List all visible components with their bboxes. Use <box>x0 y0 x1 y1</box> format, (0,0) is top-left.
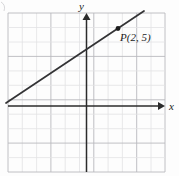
point-p-label: P(2, 5) <box>119 31 151 44</box>
page-corner-artifact <box>1 2 5 11</box>
coordinate-graph: y x P(2, 5) <box>0 0 179 176</box>
figure-container: y x P(2, 5) <box>0 0 179 176</box>
y-axis-label: y <box>78 0 84 12</box>
x-axis-label: x <box>168 100 174 112</box>
